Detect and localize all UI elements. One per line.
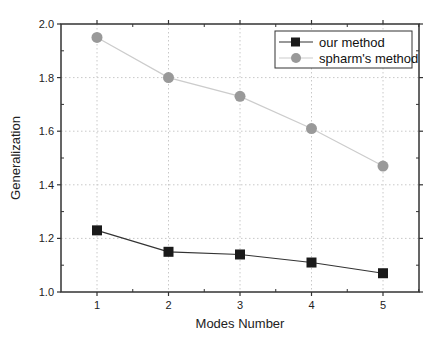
circle-marker — [92, 32, 103, 43]
circle-marker — [378, 161, 389, 172]
square-marker — [92, 225, 102, 235]
circle-marker — [235, 91, 246, 102]
x-tick-label: 3 — [237, 299, 243, 311]
legend-square-icon — [291, 38, 300, 47]
x-tick-label: 1 — [94, 299, 100, 311]
y-tick-label: 2.0 — [39, 18, 54, 30]
legend-label: spharm's method — [319, 51, 418, 66]
y-tick-label: 1.2 — [39, 232, 54, 244]
legend: our methodspharm's method — [275, 31, 418, 68]
circle-marker — [306, 123, 317, 134]
y-axis-title: Generalization — [8, 116, 23, 200]
line-chart: 1.01.21.41.61.82.012345 Modes Number Gen… — [0, 0, 437, 348]
y-tick-label: 1.0 — [39, 286, 54, 298]
legend-circle-icon — [291, 53, 301, 63]
legend-label: our method — [319, 35, 385, 50]
x-axis-title: Modes Number — [196, 316, 286, 331]
y-tick-label: 1.4 — [39, 179, 54, 191]
circle-marker — [163, 72, 174, 83]
square-marker — [164, 247, 174, 257]
square-marker — [307, 258, 317, 268]
x-tick-label: 5 — [380, 299, 386, 311]
x-tick-label: 4 — [308, 299, 314, 311]
y-tick-label: 1.6 — [39, 125, 54, 137]
y-tick-label: 1.8 — [39, 72, 54, 84]
square-marker — [378, 268, 388, 278]
x-tick-label: 2 — [165, 299, 171, 311]
square-marker — [235, 249, 245, 259]
